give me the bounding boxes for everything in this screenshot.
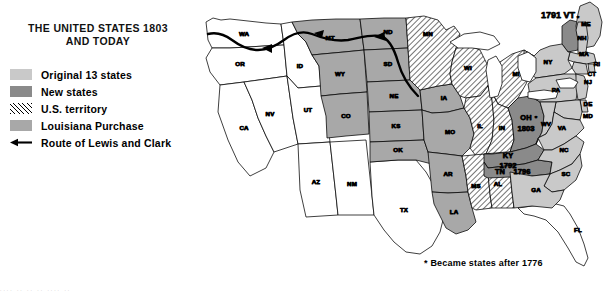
label-FL: FL [574,226,582,233]
label-WY: WY [335,70,346,77]
label-CT: CT [588,70,597,77]
left-arrow-icon [10,137,32,148]
label-KY: KY [503,151,513,160]
state-CT[interactable] [572,62,588,74]
label-AZ: AZ [312,178,321,185]
label-IA: IA [441,94,448,101]
label-MO: MO [445,128,455,135]
annotation-vermont-1791: 1791 VT [541,10,576,20]
legend-label-louisiana-purchase: Louisiana Purchase [41,120,144,132]
label-MD: MD [583,112,593,119]
label-ID: ID [297,62,304,69]
label-OK: OK [393,146,403,153]
label-MN: MN [423,30,433,37]
label-WI: WI [464,64,472,71]
footnote: * Became states after 1776 [424,258,543,268]
legend-label-original: Original 13 states [41,69,132,81]
label-NJ: NJ [584,78,593,85]
us-map: WA OR ID MT WY CA NV UT CO AZ NM TX ND S… [188,0,606,291]
label-OH: OH [520,113,531,122]
state-FL[interactable] [518,204,588,266]
bottom-strip: .... .. .. .. .... .. [0,286,606,291]
label-IN: IN [499,124,506,131]
legend-item-lewis-clark-route: Route of Lewis and Clark [10,134,196,151]
label-DE: DE [584,100,593,107]
legend-item-original: Original 13 states [10,66,196,83]
label-IL: IL [477,122,483,129]
label-AR: AR [443,170,453,177]
swatch-us-territory [10,103,32,114]
legend-item-us-territory: U.S. territory [10,100,196,117]
label-KS: KS [392,122,401,129]
legend-item-new-states: New states [10,83,196,100]
page-title: THE UNITED STATES 1803 AND TODAY [0,22,196,48]
label-ME: ME [581,20,590,27]
legend-label-lewis-clark-route: Route of Lewis and Clark [41,137,171,149]
label-WV: WV [541,120,552,127]
label-GA: GA [531,186,541,193]
label-MS: MS [471,182,480,189]
legend-label-new-states: New states [41,86,98,98]
label-SC: SC [562,170,571,177]
label-SD: SD [384,60,393,67]
title-line-1: THE UNITED STATES 1803 [28,22,168,34]
label-RI: RI [594,60,601,67]
label-NE: NE [390,92,399,99]
year-TN-1796: 1796 [514,167,531,176]
title-line-2: AND TODAY [6,35,190,48]
legend-label-us-territory: U.S. territory [41,103,107,115]
legend-list: Original 13 states New states U.S. terri… [0,66,196,151]
swatch-original-13-states [10,69,32,80]
label-NH: NH [577,34,587,41]
swatch-louisiana-purchase [10,120,32,131]
label-MA: MA [579,50,589,57]
legend-panel: THE UNITED STATES 1803 AND TODAY Origina… [0,22,196,151]
label-NY: NY [544,58,554,65]
label-VA: VA [558,124,567,131]
us-map-svg: WA OR ID MT WY CA NV UT CO AZ NM TX ND S… [188,0,606,291]
label-CO: CO [341,112,351,119]
label-OR: OR [235,60,245,67]
label-LA: LA [450,208,459,215]
swatch-new-states [10,86,32,97]
label-NC: NC [559,146,569,153]
label-ND: ND [383,28,393,35]
label-TX: TX [400,206,409,213]
label-MI: MI [512,70,519,77]
label-UT: UT [304,106,313,113]
label-CA: CA [239,124,249,131]
map-page: THE UNITED STATES 1803 AND TODAY Origina… [0,0,606,291]
label-TN: TN [495,167,505,176]
label-NV: NV [266,110,276,117]
label-AL: AL [494,180,503,187]
label-NM: NM [347,180,357,187]
legend-item-louisiana-purchase: Louisiana Purchase [10,117,196,134]
label-PA: PA [552,86,561,93]
state-NM[interactable] [330,140,374,215]
year-OH-1803: 1803 [518,124,535,133]
label-WA: WA [239,30,250,37]
label-MT: MT [325,34,334,41]
